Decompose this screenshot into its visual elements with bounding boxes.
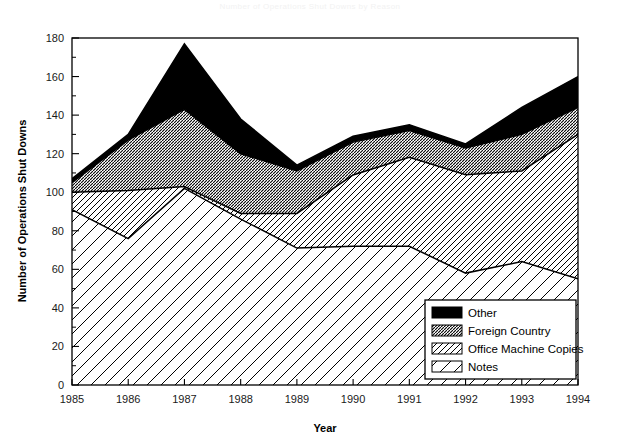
- x-tick-label: 1993: [510, 393, 534, 405]
- y-tick-label: 0: [58, 379, 64, 391]
- y-tick-label: 80: [52, 225, 64, 237]
- x-tick-label: 1986: [116, 393, 140, 405]
- x-tick-label: 1990: [341, 393, 365, 405]
- y-tick-label: 60: [52, 263, 64, 275]
- legend-item[interactable]: Office Machine Copies: [432, 343, 584, 355]
- chart-canvas: 020406080100120140160180 198519861987198…: [0, 0, 617, 446]
- legend-swatch-sparse-diagonal: [432, 361, 462, 372]
- y-tick-label: 140: [46, 109, 64, 121]
- x-tick-label: 1991: [397, 393, 421, 405]
- stacked-area-chart: 020406080100120140160180 198519861987198…: [0, 0, 617, 446]
- y-tick-label: 120: [46, 148, 64, 160]
- x-tick-label: 1987: [172, 393, 196, 405]
- chart-legend[interactable]: OtherForeign CountryOffice Machine Copie…: [425, 300, 584, 379]
- y-tick-label: 20: [52, 340, 64, 352]
- chart-screenshot: Number of Operations Shut Downs by Reaso…: [0, 0, 617, 446]
- x-tick-label: 1988: [228, 393, 252, 405]
- legend-label: Other: [468, 307, 497, 319]
- legend-label: Foreign Country: [468, 325, 551, 337]
- x-axis-title: Year: [313, 422, 337, 434]
- legend-label: Notes: [468, 361, 498, 373]
- y-tick-label: 180: [46, 32, 64, 44]
- legend-swatch-dense-hatch: [432, 325, 462, 336]
- y-tick-label: 100: [46, 186, 64, 198]
- x-tick-label: 1992: [453, 393, 477, 405]
- y-axis-title: Number of Operations Shut Downs: [16, 120, 28, 303]
- y-tick-label: 40: [52, 302, 64, 314]
- x-tick-label: 1994: [566, 393, 590, 405]
- legend-swatch-solid-black: [432, 307, 462, 318]
- legend-swatch-medium-diagonal: [432, 343, 462, 354]
- legend-item[interactable]: Foreign Country: [432, 325, 551, 337]
- y-tick-label: 160: [46, 71, 64, 83]
- x-tick-label: 1989: [285, 393, 309, 405]
- x-tick-label: 1985: [60, 393, 84, 405]
- legend-label: Office Machine Copies: [468, 343, 584, 355]
